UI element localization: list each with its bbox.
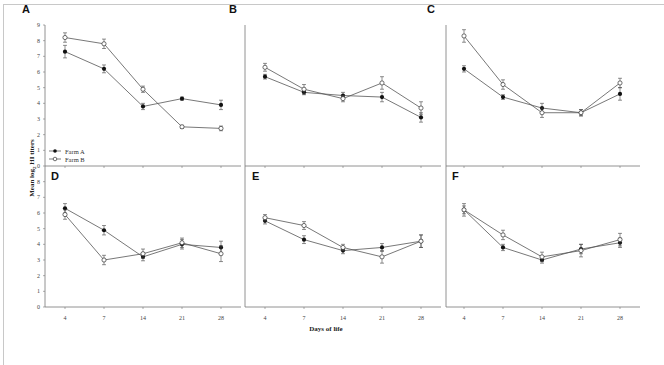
y-tick-label: 1 (37, 288, 40, 294)
series-farm-a (63, 45, 223, 109)
series-farm-b (263, 63, 423, 114)
panel-label-f: F (452, 170, 459, 182)
y-tick-label: 4 (37, 100, 40, 106)
y-tick-label: 0 (37, 304, 40, 310)
filled-circle-marker-icon (63, 50, 67, 54)
panel-label-a: A (22, 3, 30, 15)
filled-circle-marker-icon (618, 92, 622, 96)
y-tick-label: 5 (37, 226, 40, 232)
open-circle-marker-icon (263, 65, 267, 69)
y-tick-label: 7 (37, 194, 40, 200)
open-circle-marker-icon (263, 216, 267, 220)
x-tick-label: 21 (379, 315, 385, 321)
filled-circle-marker-icon (462, 67, 466, 71)
x-tick-label: 14 (539, 315, 545, 321)
y-tick-label: 8 (37, 179, 40, 185)
open-circle-marker-icon (53, 157, 57, 161)
y-tick-label: 2 (37, 273, 40, 279)
open-circle-marker-icon (302, 87, 306, 91)
x-tick-label: 28 (218, 315, 224, 321)
y-tick-label: 5 (37, 85, 40, 91)
open-circle-marker-icon (63, 212, 67, 216)
filled-circle-marker-icon (380, 245, 384, 249)
filled-circle-marker-icon (263, 75, 267, 79)
open-circle-marker-icon (141, 252, 145, 256)
legend-item-farm-b: Farm B (49, 156, 85, 163)
x-tick-label: 21 (578, 315, 584, 321)
y-tick-label: 6 (37, 210, 40, 216)
series-farm-b (63, 210, 223, 265)
x-tick-label: 4 (264, 315, 267, 321)
open-circle-marker-icon (579, 249, 583, 253)
y-tick-label: 7 (37, 53, 40, 59)
y-tick-label: 0 (37, 163, 40, 169)
filled-circle-marker-icon (380, 95, 384, 99)
y-tick-label: 3 (37, 116, 40, 122)
series-farm-b (63, 33, 223, 131)
open-circle-marker-icon (180, 241, 184, 245)
x-tick-label: 7 (502, 315, 505, 321)
open-circle-marker-icon (579, 111, 583, 115)
open-circle-marker-icon (419, 106, 423, 110)
open-circle-marker-icon (462, 34, 466, 38)
x-tick-label: 21 (179, 315, 185, 321)
filled-circle-marker-icon (102, 228, 106, 232)
filled-circle-marker-icon (141, 104, 145, 108)
open-circle-marker-icon (102, 42, 106, 46)
filled-circle-marker-icon (53, 149, 57, 153)
x-tick-label: 4 (64, 315, 67, 321)
open-circle-marker-icon (540, 255, 544, 259)
x-tick-label: 28 (617, 315, 623, 321)
x-axis-title: Days of life (309, 325, 342, 333)
panel-label-b: B (229, 3, 237, 15)
open-circle-marker-icon (618, 81, 622, 85)
panel-f: 47142128F (446, 166, 640, 321)
x-tick-label: 14 (140, 315, 146, 321)
filled-circle-marker-icon (180, 97, 184, 101)
x-tick-label: 7 (303, 315, 306, 321)
filled-circle-marker-icon (501, 245, 505, 249)
x-tick-label: 14 (340, 315, 346, 321)
y-tick-label: 9 (37, 22, 40, 28)
open-circle-marker-icon (501, 82, 505, 86)
series-farm-b (263, 215, 423, 264)
open-circle-marker-icon (380, 81, 384, 85)
filled-circle-marker-icon (419, 115, 423, 119)
y-tick-label: 1 (37, 147, 40, 153)
open-circle-marker-icon (501, 233, 505, 237)
open-circle-marker-icon (302, 223, 306, 227)
open-circle-marker-icon (341, 245, 345, 249)
open-circle-marker-icon (341, 97, 345, 101)
legend-label-farm-a: Farm A (65, 148, 85, 155)
filled-circle-marker-icon (102, 67, 106, 71)
open-circle-marker-icon (219, 252, 223, 256)
y-tick-label: 8 (37, 38, 40, 44)
open-circle-marker-icon (618, 238, 622, 242)
panel-label-d: D (51, 170, 59, 182)
y-tick-label: 3 (37, 257, 40, 263)
open-circle-marker-icon (102, 258, 106, 262)
filled-circle-marker-icon (501, 95, 505, 99)
panel-e: 47142128E (245, 166, 441, 321)
panel-d: 01234567847142128D (37, 166, 241, 321)
panel-c: C (427, 3, 640, 168)
filled-circle-marker-icon (219, 103, 223, 107)
panel-label-c: C (427, 3, 435, 15)
open-circle-marker-icon (380, 255, 384, 259)
panel-a: 0123456789A (22, 3, 241, 169)
open-circle-marker-icon (462, 208, 466, 212)
panel-label-e: E (252, 170, 259, 182)
panel-b: B (229, 3, 441, 168)
legend-label-farm-b: Farm B (65, 156, 85, 163)
legend-item-farm-a: Farm A (49, 148, 85, 155)
y-axis-title: Mean log2 HI titers (28, 139, 37, 197)
legend: Farm A Farm B (49, 148, 85, 163)
open-circle-marker-icon (63, 35, 67, 39)
open-circle-marker-icon (180, 125, 184, 129)
open-circle-marker-icon (141, 87, 145, 91)
filled-circle-marker-icon (302, 238, 306, 242)
y-tick-label: 4 (37, 241, 40, 247)
y-tick-label: 6 (37, 69, 40, 75)
x-tick-label: 7 (103, 315, 106, 321)
